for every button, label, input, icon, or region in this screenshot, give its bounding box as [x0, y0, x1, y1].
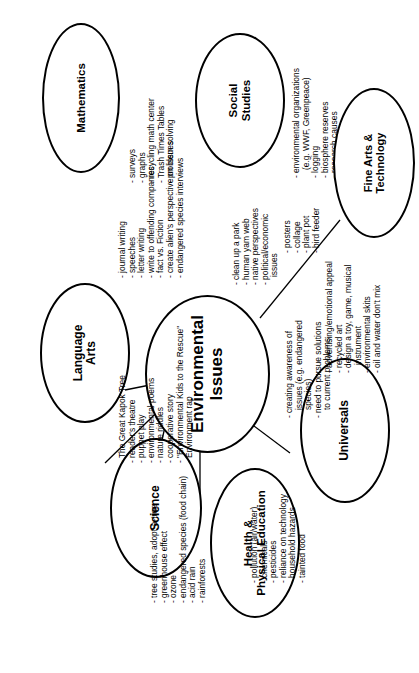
social-studies-projects-list: clean up a park human yam web native per…	[232, 203, 280, 285]
node-social-studies-label-1: Social	[227, 80, 240, 122]
list-item: endangered species interviews	[176, 138, 186, 278]
list-item: rainforests	[198, 453, 208, 603]
center-title-line2: Issues	[208, 315, 227, 433]
fine-arts-list: posters collage plant pot bird feeder	[283, 173, 321, 253]
node-universals-label: Universals	[338, 400, 351, 461]
list-item: Environment rap	[185, 313, 195, 463]
node-social-studies-label-2: Studies	[240, 80, 253, 122]
list-item: oil and water don't mix	[373, 238, 383, 373]
list-item: bird feeder	[312, 173, 322, 253]
list-item: environmental organizations (e.g. WWF, G…	[292, 58, 311, 178]
node-fine-arts-label-1: Fine Arts &	[362, 133, 374, 194]
node-fine-arts-label-2: Technology	[374, 133, 386, 194]
health-pe-list: tree studies, adopt-a-tree greenhouse ef…	[150, 453, 208, 603]
list-item: creating awareness of issues (e.g. endan…	[285, 318, 314, 418]
universals-list: pollution (air/water) chemicals pesticid…	[250, 483, 308, 583]
language-arts-list: journal writing speeches letter writing …	[118, 138, 185, 278]
node-mathematics-label: Mathematics	[75, 63, 88, 133]
node-social-studies: Social Studies	[195, 33, 285, 168]
science-list: The Great Kapok Tree reader's theatre pu…	[118, 313, 195, 463]
list-item: political/economic issues	[261, 203, 280, 285]
node-mathematics: Mathematics	[42, 23, 120, 173]
node-language-arts-label-2: Arts	[85, 325, 98, 382]
list-item: design a toy, game, musical instrument	[344, 238, 363, 373]
list-item: tainted food	[298, 483, 308, 583]
node-fine-arts-technology: Fine Arts & Technology	[333, 88, 415, 238]
fine-arts-projects-list: advertising/emotional appeal recycled ar…	[325, 238, 383, 373]
environmental-issues-web-diagram: Environmental Issues Mathematics surveys…	[0, 0, 419, 673]
